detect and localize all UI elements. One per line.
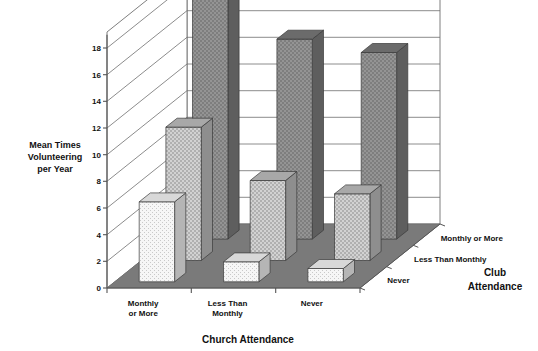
y-axis-tick-labels: 024681012141618 (92, 44, 101, 293)
x-category-label-0-line-0: Monthly (128, 299, 159, 308)
y-tick-label-3: 6 (97, 204, 102, 213)
y-tick-label-8: 16 (92, 71, 101, 80)
bar-front-0 (139, 193, 186, 282)
three-d-bar-chart: 024681012141618 Monthlyor MoreLess ThanM… (0, 0, 538, 351)
bar-middle-2 (335, 185, 382, 261)
y-axis-title-line-3: per Year (37, 164, 73, 174)
y-tick-label-6: 12 (92, 124, 101, 133)
bar-front-2 (308, 260, 355, 282)
y-axis-title: Mean Times Volunteering per Year (28, 140, 82, 174)
chart-container: 024681012141618 Monthlyor MoreLess ThanM… (0, 0, 538, 351)
x-category-label-0-line-1: or More (129, 309, 159, 318)
x-category-label-2-line-0: Never (301, 299, 323, 308)
z-axis-title: Club Attendance (468, 267, 523, 292)
x-category-label-1-line-0: Less Than (208, 299, 248, 308)
y-tick-label-1: 2 (97, 257, 102, 266)
y-tick-label-4: 8 (97, 177, 102, 186)
y-axis-title-line-1: Mean Times (29, 140, 80, 150)
z-category-label-0: Monthly or More (441, 234, 504, 243)
z-axis-title-line-2: Attendance (468, 281, 523, 292)
plot-scene (103, 0, 445, 293)
y-tick-label-2: 4 (97, 231, 102, 240)
x-axis-title: Church Attendance (202, 334, 294, 345)
y-tick-label-7: 14 (92, 97, 101, 106)
x-axis-category-labels: Monthlyor MoreLess ThanMonthlyNever (128, 299, 323, 318)
z-category-label-1: Less Than Monthly (414, 255, 487, 264)
y-tick-label-0: 0 (97, 284, 102, 293)
z-category-label-2: Never (387, 276, 409, 285)
bar-middle-1 (250, 172, 297, 261)
bar-front-1 (224, 253, 271, 282)
y-axis-title-line-2: Volunteering (28, 152, 82, 162)
y-tick-label-9: 18 (92, 44, 101, 53)
x-category-label-1-line-1: Monthly (212, 309, 243, 318)
z-axis-title-line-1: Club (484, 267, 506, 278)
y-tick-label-5: 10 (92, 151, 101, 160)
